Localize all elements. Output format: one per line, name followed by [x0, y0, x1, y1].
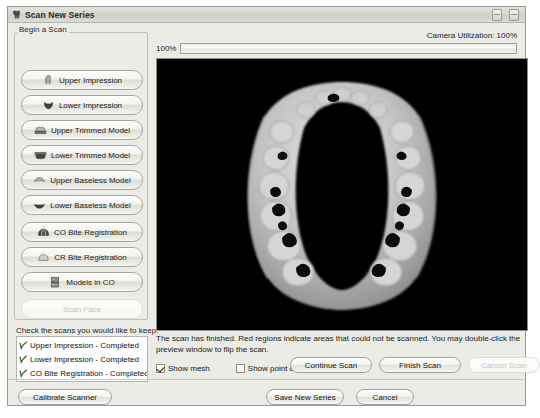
list-item-label: Upper Impression - Completed: [30, 341, 139, 350]
left-panel: Begin a Scan Upper Impression Lower Impr…: [8, 23, 154, 405]
scan-new-series-window: Scan New Series Begin a Scan Upper Impre…: [7, 6, 526, 406]
title-bar[interactable]: Scan New Series: [8, 7, 525, 23]
cr-bite-registration-button[interactable]: CR Bite Registration: [21, 247, 143, 267]
progress-percent-label: 100%: [156, 44, 176, 53]
keep-scans-list[interactable]: Upper Impression - Completed Lower Impre…: [16, 336, 148, 382]
button-label: Upper Trimmed Model: [51, 126, 130, 135]
upper-baseless-model-button[interactable]: Upper Baseless Model: [21, 170, 143, 190]
tooth-icon: [12, 10, 22, 20]
lower-trimmed-model-icon: [34, 149, 47, 162]
calibrate-scanner-button[interactable]: Calibrate Scanner: [18, 389, 112, 405]
cr-bite-registration-icon: [37, 251, 50, 264]
keep-scans-label: Check the scans you would like to keep:: [16, 326, 158, 335]
lower-baseless-model-button[interactable]: Lower Baseless Model: [21, 195, 143, 215]
cancel-button[interactable]: Cancel: [356, 389, 414, 405]
save-new-series-button[interactable]: Save New Series: [266, 389, 344, 405]
upper-impression-icon: [42, 74, 55, 87]
lower-impression-icon: [42, 99, 55, 112]
list-item-label: Lower Impression - Completed: [30, 355, 139, 364]
button-label: Lower Baseless Model: [50, 201, 130, 210]
check-icon[interactable]: [19, 355, 28, 364]
upper-impression-button[interactable]: Upper Impression: [21, 70, 143, 90]
show-mesh-checkbox[interactable]: Show mesh: [156, 364, 210, 373]
begin-a-scan-label: Begin a Scan: [17, 25, 69, 34]
button-label: Lower Trimmed Model: [51, 151, 130, 160]
main-area: Camera Utilization: 100% 100%: [154, 23, 525, 405]
checkbox-box[interactable]: [236, 364, 245, 373]
checkbox-box[interactable]: [156, 364, 165, 373]
scan-preview-viewport[interactable]: [156, 58, 528, 331]
check-icon[interactable]: [19, 369, 28, 378]
button-label: CR Bite Registration: [54, 253, 126, 262]
button-label: Models in CO: [66, 278, 114, 287]
list-item-label: CO Bite Registration - Completed: [30, 369, 148, 378]
scan-status-text: The scan has finished. Red regions indic…: [156, 334, 528, 355]
lower-baseless-model-icon: [33, 199, 46, 212]
list-item[interactable]: Lower Impression - Completed: [19, 352, 145, 366]
minimize-button[interactable]: [492, 9, 502, 21]
button-label: Upper Impression: [59, 76, 122, 85]
lower-trimmed-model-button[interactable]: Lower Trimmed Model: [21, 145, 143, 165]
co-bite-registration-icon: [37, 226, 50, 239]
lower-impression-button[interactable]: Lower Impression: [21, 95, 143, 115]
close-button[interactable]: [509, 9, 519, 21]
button-label: Upper Baseless Model: [50, 176, 130, 185]
finish-scan-button[interactable]: Finish Scan: [379, 357, 461, 373]
progress-fill: [181, 44, 516, 53]
cancel-scan-button[interactable]: Cancel Scan: [468, 357, 540, 373]
footer-divider: [8, 379, 525, 380]
scan-face-button[interactable]: Scan Face: [21, 299, 143, 319]
button-label: Scan Face: [63, 305, 101, 314]
list-item[interactable]: CO Bite Registration - Completed: [19, 366, 145, 380]
check-icon[interactable]: [19, 341, 28, 350]
window-title: Scan New Series: [25, 10, 95, 20]
continue-scan-button[interactable]: Continue Scan: [290, 357, 372, 373]
window-body: Begin a Scan Upper Impression Lower Impr…: [8, 23, 525, 405]
progress-row: 100%: [156, 42, 517, 55]
button-label: Lower Impression: [59, 101, 122, 110]
upper-trimmed-model-icon: [34, 124, 47, 137]
models-in-co-icon: [49, 276, 62, 289]
models-in-co-button[interactable]: Models in CO: [21, 272, 143, 292]
scan-progress-bar: [180, 43, 517, 54]
list-item[interactable]: Upper Impression - Completed: [19, 338, 145, 352]
window-controls: [492, 9, 522, 21]
checkbox-label: Show mesh: [168, 364, 210, 373]
co-bite-registration-button[interactable]: CO Bite Registration: [21, 222, 143, 242]
upper-baseless-model-icon: [33, 174, 46, 187]
camera-utilization-label: Camera Utilization: 100%: [427, 31, 517, 40]
button-label: CO Bite Registration: [54, 228, 127, 237]
upper-trimmed-model-button[interactable]: Upper Trimmed Model: [21, 120, 143, 140]
